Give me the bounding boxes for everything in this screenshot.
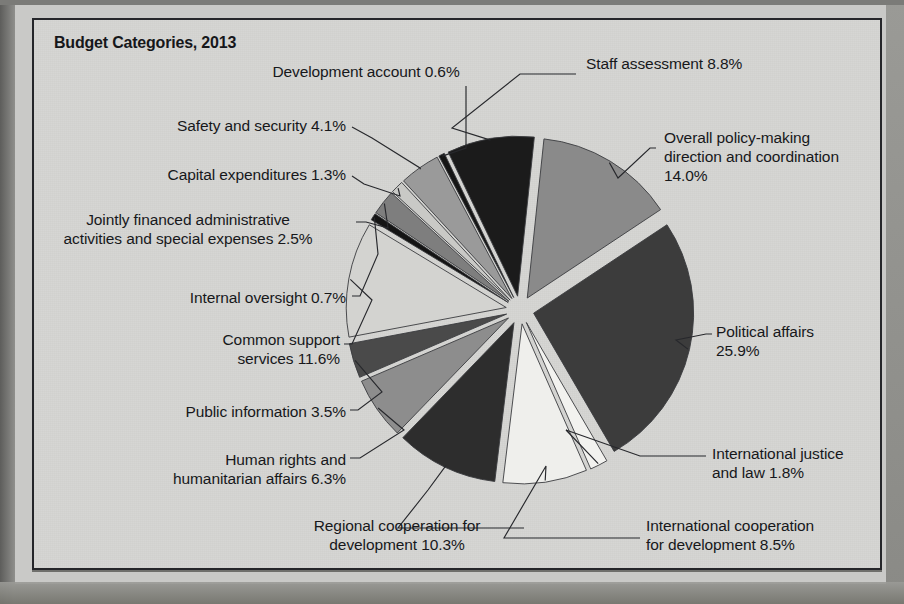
label-public-information: Public information 3.5% (96, 402, 346, 421)
label-regional-cooperation: Regional cooperation for development 10.… (274, 516, 520, 554)
label-overall-policy-making: Overall policy-making direction and coor… (664, 128, 888, 185)
scan-edge-top (0, 0, 904, 5)
label-development-account: Development account 0.6% (232, 62, 500, 81)
label-jointly-financed: Jointly financed administrative activiti… (18, 210, 358, 248)
label-capital-expenditures: Capital expenditures 1.3% (96, 165, 346, 184)
label-staff-assessment: Staff assessment 8.8% (586, 54, 846, 73)
label-safety-and-security: Safety and security 4.1% (96, 116, 346, 135)
scan-edge-bottom (0, 582, 904, 604)
label-international-justice: International justice and law 1.8% (712, 444, 902, 482)
label-common-support-services: Common support services 11.6% (100, 330, 340, 368)
scanned-page: Budget Categories, 2013 Development acco… (0, 0, 904, 604)
label-human-rights: Human rights and humanitarian affairs 6.… (78, 450, 346, 488)
label-international-cooperation: International cooperation for developmen… (646, 516, 886, 554)
scan-edge-left (0, 0, 15, 604)
label-internal-oversight: Internal oversight 0.7% (78, 288, 346, 307)
leader-line (352, 127, 421, 169)
leader-line (452, 74, 576, 140)
label-political-affairs: Political affairs 25.9% (716, 322, 896, 360)
leader-line (352, 176, 400, 196)
